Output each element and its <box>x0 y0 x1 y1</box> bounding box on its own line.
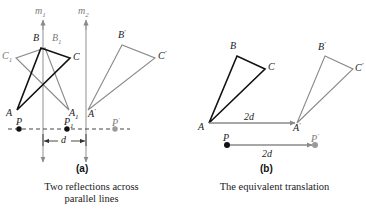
triangle-translated <box>297 56 353 123</box>
triangle-original-b <box>209 56 265 123</box>
label-m2: m2 <box>78 6 89 19</box>
vertex-label-B-prime: B' <box>118 29 126 40</box>
vertex-label-A: A <box>6 108 12 118</box>
point-label-P-b: P <box>223 133 229 143</box>
point-label-P-prime: P' <box>112 117 120 128</box>
point-label-P-prime-b: P' <box>311 133 319 144</box>
panel-a-caption-line1: Two reflections across <box>0 181 183 193</box>
panel-a-caption-letter: (a) <box>76 163 88 174</box>
panel-b-graphics <box>209 56 353 148</box>
triangle-second-reflection <box>88 45 155 110</box>
arrow-label-2d-bottom: 2d <box>262 149 272 159</box>
vertex-label-B-prime-b: B' <box>318 41 326 52</box>
arrow-label-2d-top: 2d <box>244 112 254 122</box>
vertex-label-B: B <box>33 33 39 43</box>
label-m1: m1 <box>35 6 46 19</box>
panel-b-caption-line1: The equivalent translation <box>183 181 366 193</box>
vertex-label-B-b: B <box>230 41 236 51</box>
vertex-label-A-b: A <box>198 122 204 132</box>
point-label-P1: P1 <box>64 117 74 130</box>
vertex-label-B1: B1 <box>52 33 62 46</box>
point-P <box>16 126 21 131</box>
vertex-label-C-prime: C' <box>158 50 166 61</box>
vertex-label-C-prime-b: C' <box>355 62 363 73</box>
vertex-label-A-prime: A' <box>88 108 96 119</box>
vertex-label-C-b: C <box>268 62 275 72</box>
vertex-label-C1: C1 <box>2 51 12 64</box>
panel-a-caption-line2: parallel lines <box>0 193 183 205</box>
vertex-label-A-prime-b: A' <box>293 122 301 133</box>
vertex-label-C: C <box>73 52 80 62</box>
distance-label-d: d <box>61 135 66 145</box>
panel-b-caption-letter: (b) <box>260 163 273 174</box>
point-label-P: P <box>16 117 22 127</box>
figure-container: m1 m2 A B C A1 B1 C1 A' B' C' P P1 P' d … <box>0 0 366 213</box>
panel-a-graphics <box>8 20 155 162</box>
